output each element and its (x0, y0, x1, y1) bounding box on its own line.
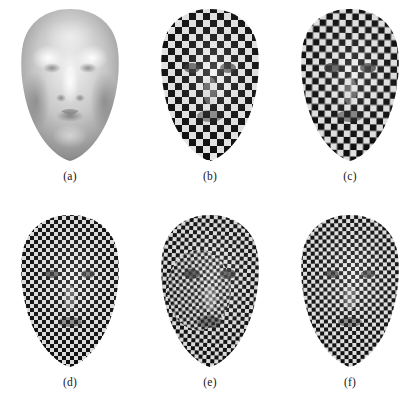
panel-d: (d) (0, 204, 140, 404)
panel-caption-e: (e) (203, 377, 216, 389)
face-image-d (14, 212, 126, 372)
face-image-b (154, 6, 266, 166)
face-image-a (14, 6, 126, 166)
panel-b: (b) (140, 4, 280, 204)
face-checkered-c (294, 6, 406, 166)
face-shaded-a (14, 6, 126, 166)
face-checkered-b (154, 6, 266, 166)
panel-e: (e) (140, 204, 280, 404)
face-checkered-d (14, 212, 126, 372)
face-checkered-f (294, 212, 406, 372)
panel-caption-d: (d) (63, 377, 77, 389)
panel-caption-c: (c) (343, 171, 356, 183)
panel-caption-f: (f) (344, 377, 356, 389)
face-checkered-e (154, 212, 266, 372)
figure-panel-grid: (a) (0, 0, 420, 408)
panel-c: (c) (280, 4, 420, 204)
panel-grid: (a) (0, 0, 420, 408)
panel-caption-a: (a) (63, 171, 76, 183)
face-image-c (294, 6, 406, 166)
panel-f: (f) (280, 204, 420, 404)
panel-caption-b: (b) (203, 171, 217, 183)
face-image-f (294, 212, 406, 372)
face-image-e (154, 212, 266, 372)
panel-a: (a) (0, 4, 140, 204)
